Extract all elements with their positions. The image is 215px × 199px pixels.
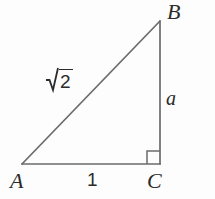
vertex-label-a: A: [10, 170, 23, 192]
right-angle-marker-icon: [147, 151, 160, 164]
right-triangle-figure: B A C a 1 2: [0, 0, 215, 199]
side-label-ab: 2: [46, 64, 73, 91]
radical-sign-icon: [46, 64, 59, 91]
hypotenuse-line-ab: [22, 21, 160, 164]
radicand-value: 2: [59, 69, 73, 91]
vertex-label-b: B: [167, 1, 180, 23]
side-label-ac: 1: [87, 170, 98, 189]
triangle-drawing: [0, 0, 215, 199]
side-label-bc: a: [166, 88, 176, 108]
vertex-label-c: C: [147, 170, 162, 192]
